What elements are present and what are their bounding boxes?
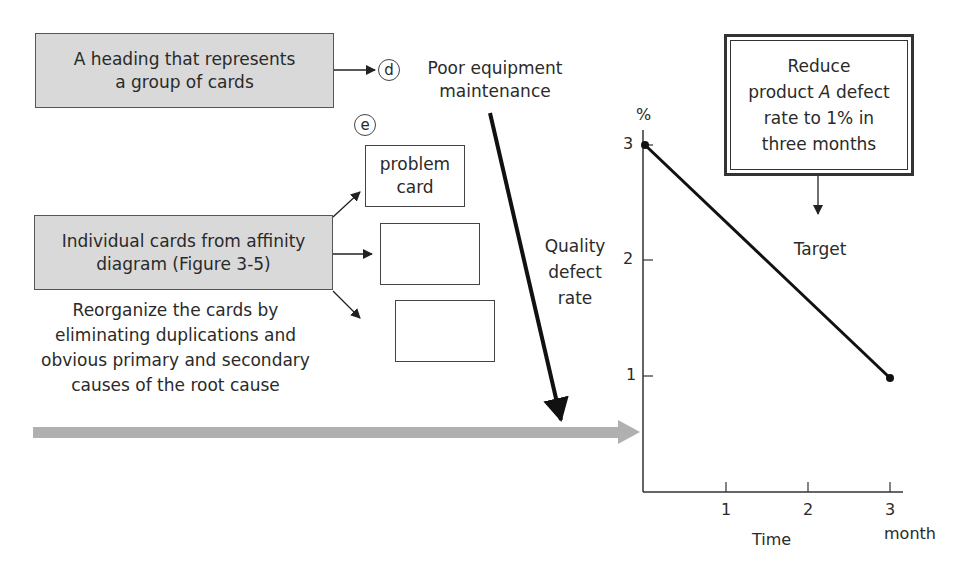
gray-fishbone-spine xyxy=(33,427,625,438)
marker-e-label: e xyxy=(360,116,369,134)
x-tick-3: 3 xyxy=(885,500,895,519)
to-problem-card-arrow xyxy=(333,192,360,217)
x-axis-label: Time xyxy=(752,530,791,549)
x-tick-1: 1 xyxy=(721,500,731,519)
heading-box: A heading that represents a group of car… xyxy=(35,33,334,108)
target-line-1: Reduce xyxy=(748,53,890,79)
marker-d: d xyxy=(378,59,400,81)
instruction-text: Reorganize the cards by eliminating dupl… xyxy=(28,298,323,398)
x-axis-unit: month xyxy=(884,524,936,543)
defect-rate-line xyxy=(645,145,890,378)
gray-arrowhead xyxy=(618,420,640,444)
empty-card-2 xyxy=(395,300,495,362)
marker-e: e xyxy=(354,114,376,136)
y-tick-3: 3 xyxy=(623,134,633,153)
empty-card-1 xyxy=(380,223,480,285)
marker-d-label: d xyxy=(384,61,394,79)
data-point-end xyxy=(886,374,894,382)
to-card-3-arrow xyxy=(333,291,360,318)
y-axis-unit: % xyxy=(636,105,651,124)
target-line-4: three months xyxy=(748,131,890,157)
y-tick-2: 2 xyxy=(623,249,633,268)
heading-box-label: A heading that represents a group of car… xyxy=(74,48,296,94)
target-line-3: rate to 1% in xyxy=(748,105,890,131)
data-point-start xyxy=(641,141,649,149)
y-tick-1: 1 xyxy=(626,365,636,384)
x-tick-2: 2 xyxy=(803,500,813,519)
individual-cards-box: Individual cards from affinity diagram (… xyxy=(34,215,333,290)
cause-label: Poor equipment maintenance xyxy=(410,57,580,103)
target-label: Target xyxy=(780,238,860,261)
target-line-2: product A defect xyxy=(748,79,890,105)
problem-card-label: problem card xyxy=(380,153,450,199)
target-box-inner: Reduce product A defect rate to 1% in th… xyxy=(730,40,908,170)
effect-label: Quality defect rate xyxy=(540,233,610,311)
individual-cards-label: Individual cards from affinity diagram (… xyxy=(62,230,306,276)
target-box: Reduce product A defect rate to 1% in th… xyxy=(724,34,914,176)
problem-card: problem card xyxy=(365,145,465,207)
